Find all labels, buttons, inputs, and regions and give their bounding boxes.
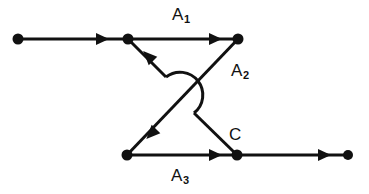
arrowhead-layer [96, 33, 331, 161]
edge-label-c: C [229, 126, 241, 143]
diagram-svg [0, 0, 369, 194]
arrowhead-a2 [142, 125, 160, 143]
edge-label-a1: A1 [172, 6, 190, 23]
edge-label-a2-base: A [231, 61, 243, 80]
edge-label-a3: A3 [171, 167, 189, 184]
node-bottom-right [232, 150, 243, 161]
arrowhead-lead-in [96, 33, 109, 45]
node-bottom-left [122, 150, 133, 161]
edge-label-a2: A2 [231, 62, 249, 79]
node-top-right [233, 34, 244, 45]
arrowhead-a3 [209, 149, 222, 161]
node-top-left [123, 34, 134, 45]
edge-label-a1-subscript: 1 [184, 13, 190, 25]
edge-label-a1-base: A [172, 5, 184, 24]
arrowhead-c [139, 47, 157, 65]
node-right-endpoint [343, 150, 353, 160]
arrowhead-a1 [209, 33, 222, 45]
edge-label-a2-subscript: 2 [243, 69, 249, 81]
diagram-canvas: A1 A2 C A3 [0, 0, 369, 194]
arrowhead-lead-out [318, 149, 331, 161]
node-left-endpoint [13, 34, 24, 45]
edge-layer [18, 39, 348, 155]
edge-label-a3-base: A [171, 166, 183, 185]
edge-label-a3-subscript: 3 [183, 174, 189, 186]
